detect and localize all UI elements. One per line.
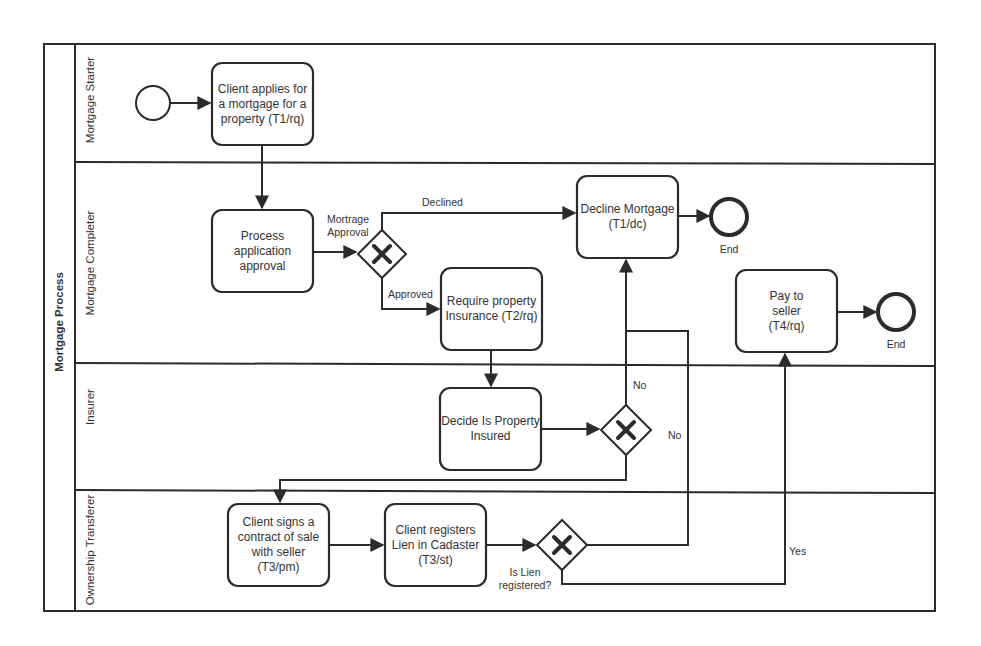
end-event-pay-label: End [881, 337, 911, 352]
flow-label-lien-yes: Yes [789, 545, 806, 557]
flow-label-insured-no: No [633, 379, 646, 391]
task-pay-seller-label: Pay to seller (T4/rq) [758, 272, 815, 350]
start-event[interactable] [136, 86, 170, 120]
task-require-insurance-label: Require property Insurance (T2/rq) [443, 270, 540, 348]
gateway-approval-label: Mortrage Approval [320, 213, 376, 239]
lane-label-completer: Mortgage Completer [84, 208, 96, 318]
flow-label-declined: Declined [422, 196, 463, 208]
lane-label-transferer: Ownership Transferer [84, 490, 96, 610]
task-process-label: Process application approval [222, 212, 303, 290]
gateway-insured[interactable] [601, 405, 651, 455]
task-apply-label: Client applies for a mortgage for a prop… [214, 65, 311, 143]
lane-divider [75, 490, 935, 493]
end-event-pay[interactable] [878, 294, 914, 330]
pool-title: Mortgage Process [53, 267, 65, 377]
lane-divider [75, 363, 935, 366]
lane-divider [75, 162, 935, 164]
flow-label-approved: Approved [388, 288, 433, 300]
task-sign-contract-label: Client signs a contract of sale with sel… [232, 506, 325, 584]
gateway-lien-label: Is Lien registered? [495, 566, 555, 592]
lane-label-insurer: Insurer [84, 357, 96, 457]
flow-label-lien-no: No [668, 429, 681, 441]
end-event-decline[interactable] [711, 199, 747, 235]
task-decline-label: Decline Mortgage (T1/dc) [579, 178, 676, 256]
lane-label-starter: Mortgage Starter [84, 50, 96, 150]
task-register-lien-label: Client registers Lien in Cadaster (T3/st… [387, 506, 484, 584]
gateway-lien[interactable] [537, 520, 587, 570]
end-event-decline-label: End [714, 242, 744, 257]
task-decide-insured-label: Decide Is Property Insured [438, 390, 543, 468]
